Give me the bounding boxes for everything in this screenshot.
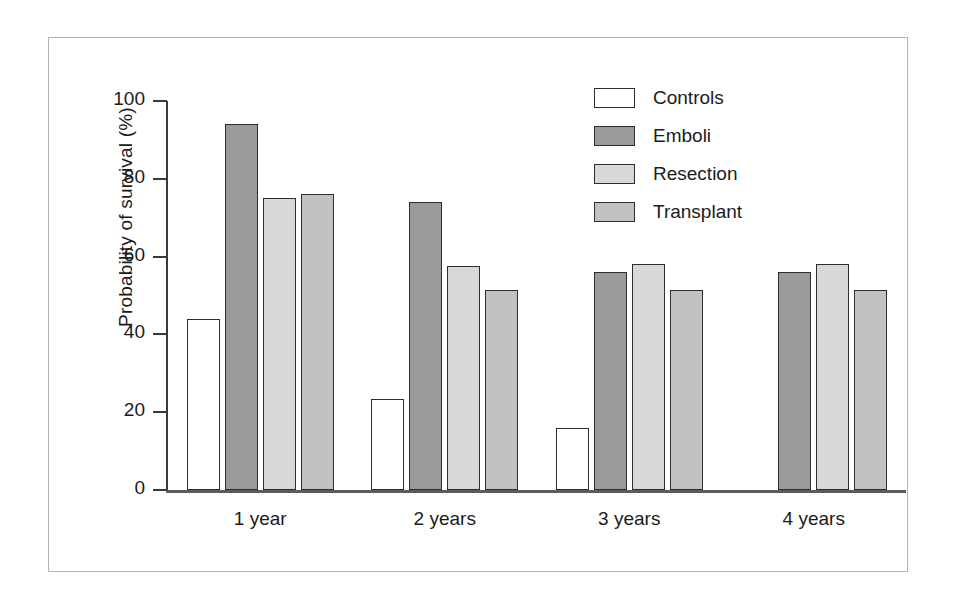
y-axis-line [166,101,168,492]
bar [485,290,518,490]
y-axis-tick [153,489,167,491]
figure-frame: Probability of survival (%) 020406080100… [48,37,908,572]
y-axis-tick-label: 20 [83,399,145,421]
y-axis-tick [153,178,167,180]
y-axis-tick [153,333,167,335]
legend-swatch-icon [594,126,635,146]
y-axis-tick [153,256,167,258]
legend-item: Resection [594,159,742,188]
y-axis-tick [153,411,167,413]
figure-root: Probability of survival (%) 020406080100… [0,0,954,607]
plot-area: Probability of survival (%) 020406080100… [49,38,909,573]
bar [632,264,665,490]
y-axis-tick-label: 80 [83,166,145,188]
bar [301,194,334,490]
x-axis-tick-label: 1 year [175,508,345,530]
bar [409,202,442,490]
legend-item: Controls [594,83,742,112]
bar [447,266,480,490]
bar [556,428,589,490]
legend-swatch-icon [594,88,635,108]
bar [263,198,296,490]
legend-swatch-icon [594,164,635,184]
bar [854,290,887,490]
legend-item-label: Emboli [653,125,711,147]
bar [670,290,703,490]
legend-item-label: Transplant [653,201,742,223]
legend-item: Emboli [594,121,742,150]
y-axis-tick-label: 0 [83,477,145,499]
bar [778,272,811,490]
legend-item: Transplant [594,197,742,226]
bar [371,399,404,490]
legend-item-label: Controls [653,87,724,109]
bar [816,264,849,490]
y-axis-tick-label: 100 [83,88,145,110]
y-axis-tick [153,100,167,102]
bar [594,272,627,490]
y-axis-title: Probability of survival (%) [115,72,137,362]
legend-swatch-icon [594,202,635,222]
y-axis-tick-label: 60 [83,244,145,266]
x-axis-tick-label: 4 years [729,508,899,530]
x-axis-tick-label: 2 years [360,508,530,530]
x-axis-tick-label: 3 years [544,508,714,530]
legend-item-label: Resection [653,163,738,185]
y-axis-tick-label: 40 [83,321,145,343]
chart-legend: ControlsEmboliResectionTransplant [594,83,742,235]
x-axis-line [166,490,906,493]
bar [187,319,220,490]
bar [225,124,258,490]
